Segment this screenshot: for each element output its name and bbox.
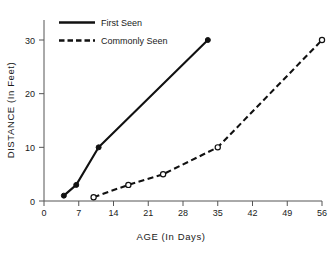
data-point-marker xyxy=(161,172,166,177)
chart-legend: First Seen Commonly Seen xyxy=(59,18,168,46)
y-tick-label: 30 xyxy=(25,36,35,46)
x-axis-tick-labels: 0 7 14 21 28 35 42 49 56 xyxy=(41,208,327,218)
x-tick-label: 28 xyxy=(178,208,188,218)
x-axis-ticks xyxy=(44,201,322,206)
x-tick-label: 49 xyxy=(282,208,292,218)
y-axis-tick-labels: 30 20 10 0 xyxy=(25,36,35,207)
x-tick-label: 56 xyxy=(317,208,327,218)
data-point-marker xyxy=(215,145,220,150)
legend-label: Commonly Seen xyxy=(101,36,168,46)
line-chart: 30 20 10 0 0 7 14 21 28 35 42 49 xyxy=(0,0,336,256)
y-tick-label: 0 xyxy=(30,197,35,207)
data-point-marker xyxy=(91,195,96,200)
series-commonly-seen xyxy=(91,37,325,199)
series-first-seen xyxy=(61,38,210,199)
x-tick-label: 7 xyxy=(76,208,81,218)
x-tick-label: 0 xyxy=(41,208,46,218)
data-point-marker xyxy=(126,182,131,187)
y-tick-label: 10 xyxy=(25,143,35,153)
legend-item-commonly-seen[interactable]: Commonly Seen xyxy=(59,36,168,46)
legend-label: First Seen xyxy=(101,18,142,28)
first-seen-line xyxy=(64,40,208,196)
legend-item-first-seen[interactable]: First Seen xyxy=(59,18,142,28)
y-axis-ticks xyxy=(39,40,44,201)
data-point-marker xyxy=(74,182,79,187)
x-tick-label: 35 xyxy=(213,208,223,218)
y-axis-title: DISTANCE (In Feet) xyxy=(5,62,16,159)
x-tick-label: 14 xyxy=(108,208,118,218)
x-tick-label: 42 xyxy=(247,208,257,218)
chart-canvas: 30 20 10 0 0 7 14 21 28 35 42 49 xyxy=(0,0,336,256)
data-point-marker xyxy=(96,145,101,150)
y-tick-label: 20 xyxy=(25,89,35,99)
data-point-marker xyxy=(61,193,66,198)
x-axis-title: AGE (In Days) xyxy=(136,231,205,242)
data-point-marker xyxy=(205,38,210,43)
data-point-marker xyxy=(319,37,324,42)
x-tick-label: 21 xyxy=(143,208,153,218)
